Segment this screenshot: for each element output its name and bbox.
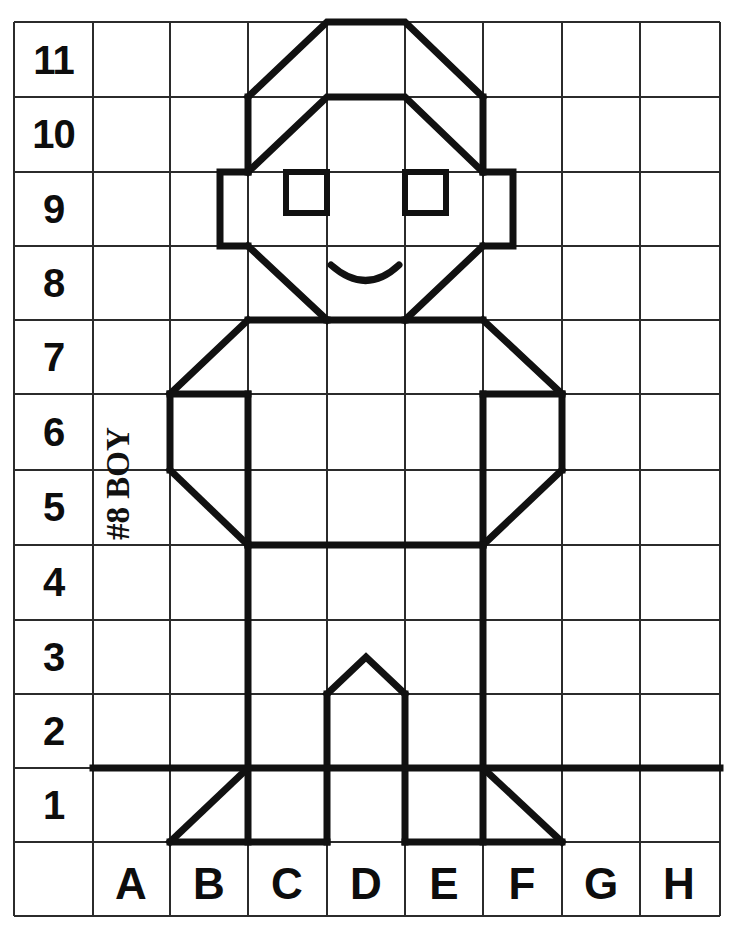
face-right-cheek bbox=[405, 246, 483, 320]
row-label-1: 1 bbox=[14, 785, 93, 825]
center-peak bbox=[327, 657, 405, 694]
right-eye bbox=[405, 172, 446, 213]
left-foot-diagonal bbox=[170, 768, 248, 842]
left-arm bbox=[170, 470, 248, 545]
mouth-smile bbox=[331, 265, 399, 281]
column-label-b: B bbox=[170, 862, 248, 906]
row-label-11: 11 bbox=[14, 40, 93, 80]
right-ear bbox=[483, 172, 513, 246]
row-label-3: 3 bbox=[14, 637, 93, 677]
column-label-a: A bbox=[92, 862, 170, 906]
right-shoulder bbox=[483, 320, 562, 394]
right-foot-diagonal bbox=[483, 768, 562, 842]
worksheet-page: 11 10 9 8 7 6 5 4 3 2 1 A B C D E F G H … bbox=[0, 0, 742, 943]
hair-outer bbox=[248, 22, 483, 97]
column-label-g: G bbox=[562, 862, 640, 906]
row-label-7: 7 bbox=[14, 337, 93, 377]
worksheet-caption: #8 BOY bbox=[100, 427, 137, 540]
column-label-h: H bbox=[640, 862, 718, 906]
face-left-cheek bbox=[248, 246, 327, 320]
column-label-f: F bbox=[483, 862, 561, 906]
row-label-10: 10 bbox=[14, 114, 93, 154]
boy-figure bbox=[93, 22, 720, 842]
right-arm bbox=[483, 470, 562, 545]
column-label-e: E bbox=[405, 862, 483, 906]
row-label-6: 6 bbox=[14, 412, 93, 452]
left-ear bbox=[220, 172, 248, 246]
left-shoulder bbox=[170, 320, 248, 394]
column-label-d: D bbox=[327, 862, 405, 906]
column-label-c: C bbox=[248, 862, 326, 906]
row-label-8: 8 bbox=[14, 263, 93, 303]
left-eye bbox=[286, 172, 327, 213]
row-label-9: 9 bbox=[14, 189, 93, 229]
row-label-5: 5 bbox=[14, 487, 93, 527]
hair-inner bbox=[248, 97, 483, 172]
row-label-4: 4 bbox=[14, 562, 93, 602]
row-label-2: 2 bbox=[14, 711, 93, 751]
